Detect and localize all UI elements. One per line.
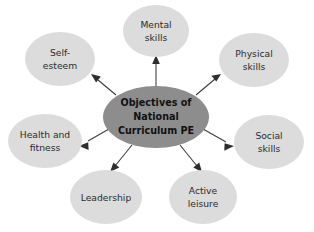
node-self-esteem[interactable]: Self- esteem xyxy=(25,32,95,86)
node-label-line2: skills xyxy=(243,61,266,72)
node-active-leisure[interactable]: Active leisure xyxy=(169,170,237,224)
center-label-line1: Objectives of xyxy=(121,97,193,108)
node-physical-skills[interactable]: Physical skills xyxy=(219,33,289,87)
node-label-line1: Health and xyxy=(20,129,70,140)
node-label-line2: esteem xyxy=(43,60,77,71)
connector-active-leisure xyxy=(180,145,202,172)
connector-health-and-fitness xyxy=(79,129,109,150)
node-label-line2: skills xyxy=(145,32,168,43)
center-label-line3: Curriculum PE xyxy=(118,125,194,136)
node-mental-skills[interactable]: Mental skills xyxy=(123,5,189,57)
connector-social-skills xyxy=(203,129,234,151)
objectives-diagram: Mental skills Physical skills Social ski… xyxy=(0,0,314,232)
connector-physical-skills xyxy=(196,74,221,95)
node-label-line2: fitness xyxy=(30,142,61,153)
diagram-canvas: Mental skills Physical skills Social ski… xyxy=(0,0,314,232)
node-label-line1: Leadership xyxy=(81,192,132,203)
connector-mental-skills xyxy=(152,55,160,86)
node-label-line1: Physical xyxy=(235,48,272,59)
node-leadership[interactable]: Leadership xyxy=(70,170,142,224)
node-label-line2: leisure xyxy=(188,198,219,209)
connector-self-esteem xyxy=(91,74,116,95)
connector-leadership xyxy=(110,145,132,172)
node-label-line1: Active xyxy=(189,185,218,196)
center-node[interactable]: Objectives of National Curriculum PE xyxy=(103,86,209,148)
node-label-line1: Self- xyxy=(50,47,70,58)
node-label-line1: Mental xyxy=(140,19,171,30)
center-label-line2: National xyxy=(133,111,179,122)
node-label-line1: Social xyxy=(255,130,282,141)
node-health-and-fitness[interactable]: Health and fitness xyxy=(8,114,82,168)
node-social-skills[interactable]: Social skills xyxy=(234,115,304,169)
node-label-line2: skills xyxy=(258,143,281,154)
